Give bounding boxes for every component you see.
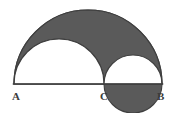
vertex-label-a: A <box>12 91 20 102</box>
figure-container: A C B <box>0 0 178 113</box>
arbelos-diagram <box>0 0 178 113</box>
vertex-label-b: B <box>157 91 164 102</box>
vertex-label-c: C <box>100 91 108 102</box>
